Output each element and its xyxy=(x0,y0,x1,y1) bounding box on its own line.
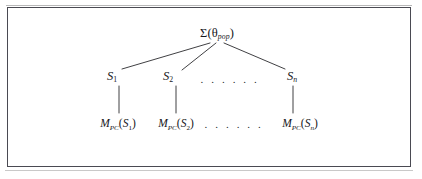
node-mpc-sn: MPC(Sn) xyxy=(282,118,318,130)
node-sn: Sn xyxy=(287,70,297,83)
root-theta-subscript: pop xyxy=(218,32,230,41)
frame-shadow-top-edge xyxy=(6,5,412,6)
s1-subscript: 1 xyxy=(113,75,117,84)
root-sigma-open: Σ( xyxy=(200,26,212,40)
s2-subscript: 2 xyxy=(169,75,173,84)
node-mpc-s2: MPC(S2) xyxy=(158,118,194,130)
frame-shadow-bottom-edge xyxy=(5,170,413,171)
mpc-s2-close-paren: ) xyxy=(190,117,194,129)
mpc-sn-close-paren: ) xyxy=(314,117,318,129)
mpc-sn-symbol: M xyxy=(282,117,292,129)
mpc-s2-subscript: PC xyxy=(168,124,177,132)
mpc-sn-subscript: PC xyxy=(292,124,301,132)
mpc-s1-close-paren: ) xyxy=(132,117,136,129)
level3-ellipsis: . . . . . . xyxy=(205,118,264,130)
node-s1: S1 xyxy=(107,70,117,83)
figure-container: Σ(θpop) S1 S2 Sn . . . . . . MPC(S1) MPC… xyxy=(0,0,422,179)
mpc-s2-symbol: M xyxy=(158,117,168,129)
level2-ellipsis: . . . . . . xyxy=(201,73,260,85)
sn-subscript: n xyxy=(293,75,297,84)
mpc-s1-symbol: M xyxy=(100,117,110,129)
node-mpc-s1: MPC(S1) xyxy=(100,118,136,130)
node-s2: S2 xyxy=(163,70,173,83)
mpc-s1-subscript: PC xyxy=(110,124,119,132)
root-close-paren: ) xyxy=(230,26,234,40)
node-root-sigma-theta-pop: Σ(θpop) xyxy=(200,27,234,40)
